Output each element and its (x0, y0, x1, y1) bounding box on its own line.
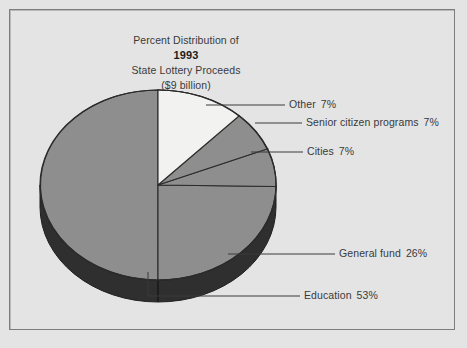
callout-general-fund: General fund26% (339, 247, 427, 259)
title-year: 1993 (88, 48, 284, 63)
callout-cities: Cities7% (307, 145, 354, 157)
pie-slices (40, 90, 276, 280)
chart-title-block: Percent Distribution of 1993 State Lotte… (88, 33, 284, 93)
callout-other-value: 7% (321, 98, 336, 110)
callout-cities-label: Cities (307, 145, 334, 157)
callout-cities-value: 7% (339, 145, 354, 157)
title-line-4: ($9 billion) (88, 78, 284, 93)
title-line-3: State Lottery Proceeds (88, 63, 284, 78)
callout-other: Other7% (289, 98, 336, 110)
callout-education-value: 53% (357, 289, 378, 301)
pie-slice-general-fund[interactable] (158, 185, 276, 280)
callout-senior-citizen-programs-label: Senior citizen programs (306, 116, 419, 128)
callout-education-label: Education (304, 289, 352, 301)
title-line-1: Percent Distribution of (88, 33, 284, 48)
pie-chart-figure: Percent Distribution of 1993 State Lotte… (0, 0, 467, 348)
callout-senior-citizen-programs-value: 7% (424, 116, 439, 128)
callout-general-fund-label: General fund (339, 247, 401, 259)
callout-other-label: Other (289, 98, 316, 110)
callout-general-fund-value: 26% (406, 247, 427, 259)
callout-education: Education53% (304, 289, 378, 301)
callout-senior-citizen-programs: Senior citizen programs7% (306, 116, 439, 128)
